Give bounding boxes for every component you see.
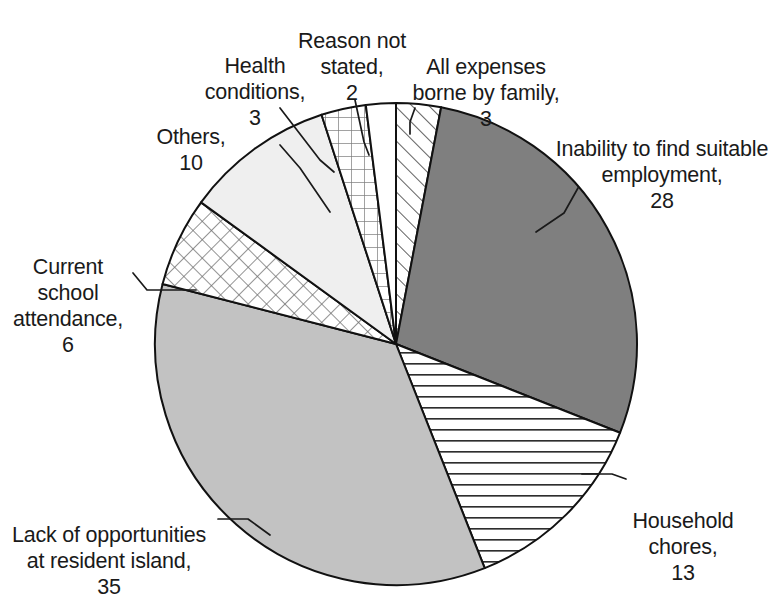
label-current-school-value: 6: [0, 332, 136, 358]
label-lack-of-opportunities-at-resident-island: Lack of opportunities at resident island…: [4, 496, 214, 598]
label-others-text: Others,: [156, 125, 225, 149]
label-inability-value: 28: [547, 188, 777, 214]
label-household-chores: Household chores, 13: [613, 482, 753, 598]
label-household-chores-text: Household chores,: [633, 509, 734, 559]
label-inability-to-find-suitable-employment: Inability to find suitable employment, 2…: [547, 110, 777, 240]
label-household-chores-value: 13: [613, 560, 753, 586]
label-others-value: 10: [118, 150, 264, 176]
label-all-expenses-text: All expenses borne by family,: [413, 55, 560, 105]
label-lack-of-opportunities-value: 35: [4, 574, 214, 598]
label-reason-not-stated-text: Reason not stated,: [298, 29, 406, 79]
label-others: Others, 10: [118, 98, 264, 202]
label-current-school-text: Current school attendance,: [13, 255, 123, 331]
label-current-school-attendance: Current school attendance, 6: [0, 228, 136, 384]
label-lack-of-opportunities-text: Lack of opportunities at resident island…: [12, 523, 206, 573]
label-inability-text: Inability to find suitable employment,: [556, 137, 768, 187]
